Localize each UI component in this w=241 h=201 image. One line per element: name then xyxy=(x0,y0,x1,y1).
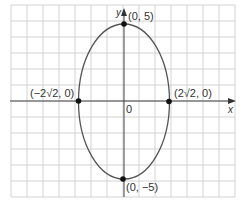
graph-canvas: y x 0 (0, 5) (0, −5) (−2√2, 0) (2√2, 0) xyxy=(0,0,241,201)
x-axis-label: x xyxy=(227,104,234,115)
label-right-point: (2√2, 0) xyxy=(174,87,212,99)
point-bottom xyxy=(120,176,126,182)
origin-label: 0 xyxy=(126,103,132,115)
y-axis-label: y xyxy=(115,7,122,18)
y-axis-arrow-icon xyxy=(121,8,127,16)
label-top-point: (0, 5) xyxy=(128,10,154,22)
point-right xyxy=(166,99,172,105)
label-bottom-point: (0, −5) xyxy=(126,181,158,193)
point-left xyxy=(76,98,82,104)
ellipse-graph: y x 0 (0, 5) (0, −5) (−2√2, 0) (2√2, 0) xyxy=(0,0,241,201)
point-top xyxy=(121,21,127,27)
label-left-point: (−2√2, 0) xyxy=(30,87,74,99)
